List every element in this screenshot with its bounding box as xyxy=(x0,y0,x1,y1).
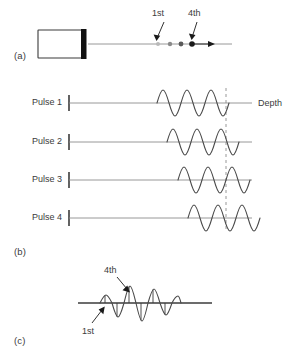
leader-line-4th-panel-c xyxy=(117,277,127,289)
leader-line-1st-panel-c xyxy=(92,310,102,323)
figure-root: (a) 1st 4th (b) Pulse 1 Pulse 2 Pulse 3 … xyxy=(0,0,303,361)
panel-b-graphic xyxy=(0,0,303,250)
pulse-row-4 xyxy=(69,205,260,231)
pulse-row-2 xyxy=(69,129,252,155)
panel-c-graphic xyxy=(0,255,303,361)
pulse-row-1 xyxy=(69,90,252,116)
pulse-row-3 xyxy=(69,167,252,193)
